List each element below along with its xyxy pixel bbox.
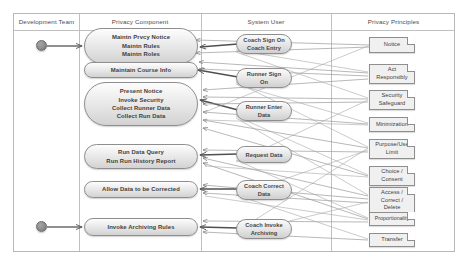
user-action-line: Archiving xyxy=(251,229,278,237)
development-team-actor-bottom[interactable] xyxy=(36,221,47,232)
lane-title-system-user: System User xyxy=(201,17,331,27)
note-fold-icon xyxy=(407,64,415,72)
lane-title-privacy-component: Privacy Component xyxy=(79,17,201,27)
user-action-coach-invoke-archiving[interactable]: Coach Invoke Archiving xyxy=(236,219,292,239)
principle-purpose-use-limit[interactable]: Purpose/Use Limit xyxy=(369,139,415,159)
principle-notice[interactable]: Notice xyxy=(369,37,415,53)
principle-proportionality[interactable]: Proportionality xyxy=(369,212,415,226)
activity-present-notice[interactable]: Present Notice Invoke Security Collect R… xyxy=(84,82,198,126)
principle-line: Choice / xyxy=(381,168,402,176)
note-fold-icon xyxy=(407,166,415,174)
activity-line: Invoke Archiving Rules xyxy=(107,223,174,231)
activity-line: Present Notice xyxy=(120,87,163,95)
activity-line: Maintain Course Info xyxy=(111,66,171,74)
user-action-line: Coach Sign On xyxy=(243,36,284,44)
user-action-line: Request Data xyxy=(246,151,283,159)
note-fold-icon xyxy=(407,212,415,220)
user-action-request-data[interactable]: Request Data xyxy=(236,146,292,163)
principle-line: Minimization xyxy=(376,121,408,129)
activity-line: Maintn Roles xyxy=(122,50,160,58)
principle-choice-consent[interactable]: Choice / Consent xyxy=(369,166,415,186)
lane-title-development-team: Development Team xyxy=(14,17,79,27)
user-action-line: On xyxy=(260,78,268,86)
principle-line: Proportionality xyxy=(375,215,410,223)
user-action-coach-correct-data[interactable]: Coach Correct Data xyxy=(236,180,292,200)
note-fold-icon xyxy=(407,139,415,147)
activity-line: Collect Run Data xyxy=(117,112,166,120)
principle-line: Responsibly xyxy=(376,74,408,82)
user-action-line: Coach Correct xyxy=(244,182,284,190)
user-action-line: Coach Invoke xyxy=(245,221,283,229)
principle-minimization[interactable]: Minimization xyxy=(369,117,415,132)
activity-line: Allow Data to be Corrected xyxy=(102,185,180,193)
user-action-line: Coach Entry xyxy=(247,44,281,52)
principle-line: Purpose/Use xyxy=(375,141,408,149)
activity-maintain-course-info[interactable]: Maintain Course Info xyxy=(84,62,198,78)
principle-line: Correct / xyxy=(381,197,403,205)
principle-line: Consent xyxy=(381,176,403,184)
activity-run-data-query[interactable]: Run Data Query Run Run History Report xyxy=(84,144,198,169)
principle-access-correct-delete[interactable]: Access / Correct / Delete xyxy=(369,187,415,214)
activity-invoke-archiving[interactable]: Invoke Archiving Rules xyxy=(84,218,198,236)
principle-transfer[interactable]: Transfer xyxy=(369,233,415,247)
principle-line: Safeguard xyxy=(379,100,406,108)
note-fold-icon xyxy=(407,187,415,195)
note-fold-icon xyxy=(407,37,415,45)
user-action-runner-enter-data[interactable]: Runner Enter Data xyxy=(236,101,292,121)
activity-line: Collect Runner Data xyxy=(112,104,170,112)
activity-line: Maintn Rules xyxy=(122,42,160,50)
principle-line: Notice xyxy=(384,41,400,49)
user-action-coach-sign-on[interactable]: Coach Sign On Coach Entry xyxy=(236,34,292,54)
principle-line: Act xyxy=(388,66,396,74)
activity-line: Invoke Security xyxy=(118,96,163,104)
lane-title-privacy-principles: Privacy Principles xyxy=(331,17,456,27)
header-separator xyxy=(14,30,454,31)
user-action-runner-sign-on[interactable]: Runner Sign On xyxy=(236,68,292,88)
principle-security-safeguard[interactable]: Security Safeguard xyxy=(369,90,415,110)
user-action-line: Runner Enter xyxy=(246,103,283,111)
lane-divider-1 xyxy=(79,14,80,251)
principle-act-responsibly[interactable]: Act Responsibly xyxy=(369,64,415,84)
user-action-line: Runner Sign xyxy=(247,70,281,78)
principle-line: Transfer xyxy=(381,236,402,244)
note-fold-icon xyxy=(407,90,415,98)
principle-line: Access / xyxy=(381,189,403,197)
note-fold-icon xyxy=(407,233,415,241)
principle-line: Limit xyxy=(386,149,398,157)
lane-divider-2 xyxy=(201,14,202,251)
activity-line: Maintn Prvcy Notice xyxy=(112,33,170,41)
user-action-line: Data xyxy=(258,190,271,198)
activity-line: Run Data Query xyxy=(118,148,164,156)
principle-line: Delete xyxy=(384,204,401,212)
diagram-canvas: Development Team Privacy Component Syste… xyxy=(0,0,470,266)
activity-line: Run Run History Report xyxy=(106,157,175,165)
principle-line: Security xyxy=(382,92,403,100)
development-team-actor-top[interactable] xyxy=(36,40,47,51)
lane-divider-3 xyxy=(331,14,332,251)
activity-maintain-privacy[interactable]: Maintn Prvcy Notice Maintn Rules Maintn … xyxy=(84,28,198,64)
note-fold-icon xyxy=(407,117,415,125)
activity-allow-correction[interactable]: Allow Data to be Corrected xyxy=(84,181,198,198)
user-action-line: Data xyxy=(258,111,271,119)
